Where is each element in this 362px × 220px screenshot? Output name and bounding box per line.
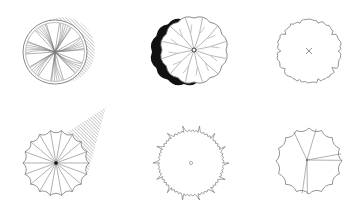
tree-symbol-radial-leaves — [23, 17, 95, 84]
tree-symbol-few-branches — [276, 128, 342, 194]
tree-symbol-spiky — [153, 126, 229, 200]
tree-symbol-cross-center — [277, 19, 341, 83]
tree-symbol-black-shadow — [151, 17, 227, 85]
symbol-sheet: Tree plan symbols — [0, 0, 362, 220]
tree-symbol-spoked-hatched — [23, 107, 106, 195]
